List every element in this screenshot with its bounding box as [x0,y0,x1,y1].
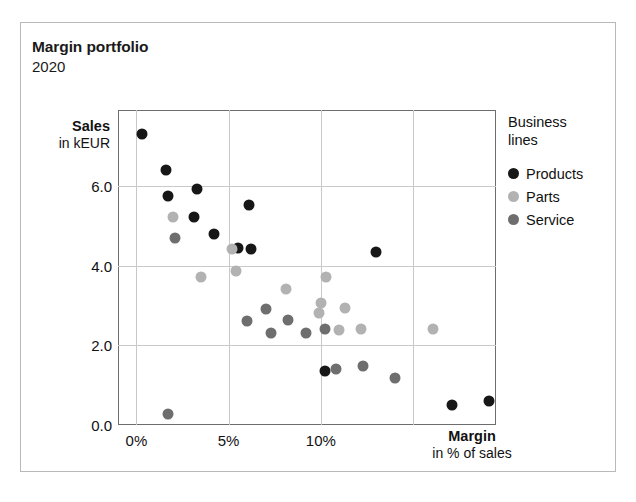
legend-item-products[interactable]: Products [508,162,626,185]
legend-marker-icon [508,168,519,179]
data-point-service [319,323,330,334]
legend-title: Business lines [508,113,626,149]
gridline-horizontal [118,345,496,346]
data-point-products [192,183,203,194]
data-point-parts [313,307,324,318]
data-point-parts [168,211,179,222]
x-axis-title-main: Margin [402,428,542,445]
data-point-service [170,232,181,243]
y-tick-label: 2.0 [60,337,112,354]
y-axis-title-sub: in kEUR [0,135,110,152]
data-point-products [243,199,254,210]
legend-item-label: Service [526,212,574,228]
legend-item-label: Products [526,166,583,182]
plot-area [118,110,496,425]
data-point-products [136,128,147,139]
data-point-products [446,400,457,411]
page-title: Margin portfolio [32,38,148,56]
legend-item-parts[interactable]: Parts [508,185,626,208]
y-axis-title: Sales in kEUR [0,118,110,152]
gridline-horizontal [118,266,496,267]
data-point-parts [334,325,345,336]
x-axis-title-sub: in % of sales [402,445,542,462]
data-point-parts [321,271,332,282]
legend-title-line2: lines [508,131,626,149]
data-point-service [330,364,341,375]
data-point-parts [195,272,206,283]
data-point-parts [339,303,350,314]
y-tick-label: 4.0 [60,257,112,274]
data-point-service [389,372,400,383]
data-point-products [371,247,382,258]
x-tick-label: 5% [218,432,240,449]
data-point-service [162,408,173,419]
y-axis-title-main: Sales [0,118,110,135]
gridline-vertical [136,110,137,425]
page-subtitle: 2020 [32,58,65,75]
x-tick-label: 0% [126,432,148,449]
y-tick-label: 6.0 [60,177,112,194]
legend-marker-icon [508,191,519,202]
gridline-horizontal [118,186,496,187]
data-point-service [242,315,253,326]
data-point-parts [428,324,439,335]
gridline-vertical [413,110,414,425]
legend-item-label: Parts [526,189,560,205]
data-point-products [319,366,330,377]
data-point-service [260,303,271,314]
gridline-vertical [321,110,322,425]
x-axis-title: Margin in % of sales [402,428,542,462]
data-point-products [483,396,494,407]
chart-page: Margin portfolio 2020 Sales in kEUR 0.02… [0,0,636,502]
plot-frame [118,110,496,425]
legend-marker-icon [508,214,519,225]
data-point-parts [280,283,291,294]
data-point-products [208,229,219,240]
data-point-service [358,360,369,371]
legend-title-line1: Business [508,113,626,131]
legend-rows: ProductsPartsService [508,162,626,231]
data-point-parts [356,323,367,334]
data-point-products [188,211,199,222]
x-tick-label: 10% [306,432,336,449]
data-point-service [301,328,312,339]
data-point-parts [227,243,238,254]
data-point-service [266,328,277,339]
data-point-products [245,243,256,254]
data-point-service [282,315,293,326]
gridline-vertical [229,110,230,425]
legend-item-service[interactable]: Service [508,208,626,231]
data-point-products [162,190,173,201]
legend: Business lines ProductsPartsService [508,113,626,231]
data-point-parts [231,265,242,276]
data-point-products [160,164,171,175]
y-tick-label: 0.0 [60,417,112,434]
